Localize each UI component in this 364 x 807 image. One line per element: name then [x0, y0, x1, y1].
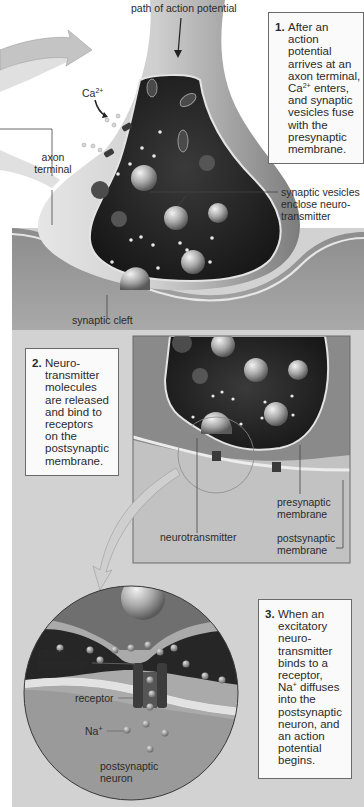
label-axon-terminal: axon terminal: [33, 151, 73, 175]
receptor-channel: [133, 663, 143, 708]
label-postsynaptic-membrane: postsynaptic membrane: [277, 532, 335, 556]
label-calcium: Ca2+: [82, 87, 103, 99]
step-2-box: 2. Neuro- transmitter molecules are rele…: [25, 348, 119, 476]
calcium-enters-line: Ca2+ enters,: [288, 82, 357, 94]
label-synaptic-cleft: synaptic cleft: [72, 314, 133, 326]
inset-panel: [133, 333, 350, 563]
label-synaptic-vesicles: synaptic vesicles enclose neuro- transmi…: [281, 186, 360, 222]
label-postsynaptic-neuron: postsynaptic neuron: [100, 760, 158, 784]
label-path-of-action-potential: path of action potential: [131, 2, 237, 14]
label-neurotransmitter-inset: neurotransmitter: [160, 531, 236, 543]
sodium-diffuses-line: Na+ diffuses: [278, 681, 345, 693]
label-presynaptic-membrane: presynaptic membrane: [277, 496, 331, 520]
step-1-box: 1. After an action potential arrives at …: [268, 12, 364, 164]
label-sodium: Na+: [85, 725, 103, 737]
step-3-box: 3. When an excitatory neuro- transmitter…: [258, 599, 352, 779]
label-receptor: receptor: [75, 692, 114, 704]
label-neurotransmitter-circle: neuro- transmitter: [38, 646, 88, 670]
